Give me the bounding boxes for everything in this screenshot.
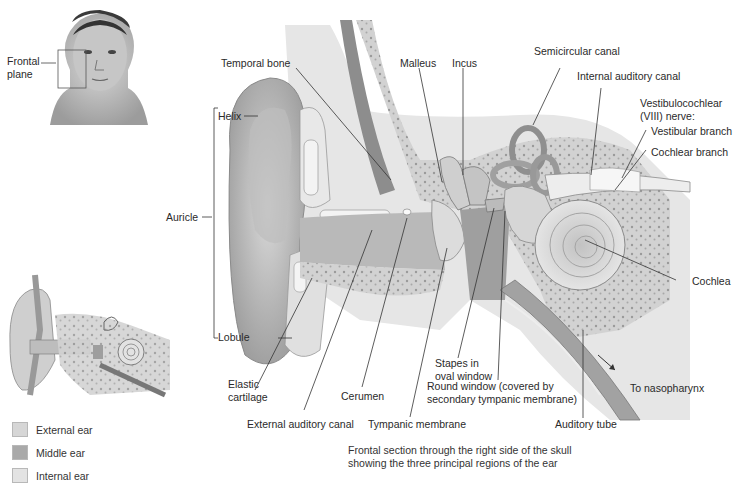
legend-swatch-internal-ear [12,468,28,483]
label-cerumen: Cerumen [341,390,384,403]
legend: External ear Middle ear Internal ear [12,418,93,487]
label-round-window: Round window (covered by secondary tympa… [427,380,577,405]
figure-caption: Frontal section through the right side o… [348,444,572,470]
label-internal-auditory-canal: Internal auditory canal [577,70,680,83]
label-auricle: Auricle [166,211,198,224]
inset-face [41,10,148,125]
label-temporal-bone: Temporal bone [221,57,290,70]
label-lobule: Lobule [218,331,250,344]
label-to-nasopharynx: To nasopharynx [630,382,704,395]
legend-label: External ear [36,424,93,436]
label-frontal-plane: Frontal plane [7,55,40,80]
label-vestibular-branch: Vestibular branch [651,125,732,138]
label-elastic-cartilage: Elastic cartilage [228,378,268,403]
label-malleus: Malleus [400,57,436,70]
label-cochlear-branch: Cochlear branch [651,146,728,159]
legend-item-middle-ear: Middle ear [12,441,93,464]
label-cochlea: Cochlea [692,275,731,288]
label-semicircular-canal: Semicircular canal [534,45,620,58]
inset-ear-diagram [10,275,170,395]
legend-swatch-external-ear [12,422,28,437]
legend-item-external-ear: External ear [12,418,93,441]
legend-label: Middle ear [36,447,85,459]
label-vestibulocochlear-nerve: Vestibulocochlear (VIII) nerve: [640,97,722,122]
label-tympanic-membrane: Tympanic membrane [368,418,466,431]
label-auditory-tube: Auditory tube [555,418,617,431]
legend-item-internal-ear: Internal ear [12,464,93,487]
legend-label: Internal ear [36,470,89,482]
label-stapes: Stapes in oval window [435,357,492,382]
legend-swatch-middle-ear [12,445,28,460]
label-incus: Incus [452,57,477,70]
label-helix: Helix [218,110,241,123]
label-external-auditory-canal: External auditory canal [247,418,354,431]
